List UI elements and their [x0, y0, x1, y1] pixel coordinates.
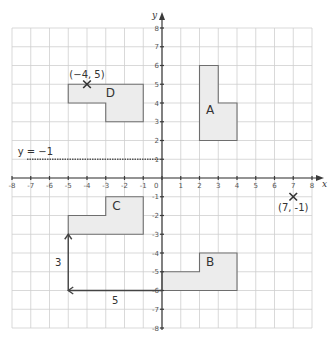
- y-tick-label: -4: [152, 250, 160, 258]
- x-tick-label: -8: [9, 182, 16, 190]
- arrow-label: 3: [55, 257, 61, 268]
- shape-label: D: [106, 86, 115, 100]
- y-tick-label: -3: [152, 231, 159, 239]
- x-tick-label: -7: [27, 182, 34, 190]
- x-tick-label: 2: [197, 182, 201, 190]
- y-tick-label: 4: [155, 100, 160, 108]
- y-tick-label: 5: [155, 81, 159, 89]
- point-label: (7, -1): [278, 202, 309, 213]
- annotations-layer: y = −1(−4, 5)(7, -1)53: [18, 69, 309, 305]
- x-tick-label: 7: [291, 182, 295, 190]
- translation-arrow: 5: [68, 287, 162, 306]
- x-tick-label: 1: [179, 182, 183, 190]
- x-tick-label: 8: [310, 182, 314, 190]
- y-tick-label: 7: [155, 43, 159, 51]
- y-tick-label: 6: [155, 62, 160, 70]
- y-axis-label: y: [151, 10, 158, 20]
- y-tick-label: -1: [152, 193, 159, 201]
- coordinate-grid-diagram: ABCD xy -8-7-6-5-4-3-2-10123456788765432…: [0, 0, 334, 342]
- shape-d: D: [68, 84, 143, 122]
- y-axis-arrowhead-icon: [159, 12, 165, 20]
- y-tick-label: 3: [155, 118, 159, 126]
- shape-label: A: [206, 103, 215, 117]
- shape-b-outline: [162, 253, 237, 291]
- y-tick-label: -2: [152, 212, 159, 220]
- point-marker: (7, -1): [278, 193, 309, 213]
- arrow-label: 5: [112, 295, 118, 306]
- origin-label: 0: [154, 182, 158, 190]
- y-tick-label: -7: [152, 306, 159, 314]
- shape-b: B: [162, 253, 237, 291]
- shape-label: B: [206, 255, 214, 269]
- translation-arrow: 3: [55, 234, 72, 290]
- shape-c: C: [68, 197, 143, 235]
- x-tick-label: -2: [121, 182, 128, 190]
- point-label: (−4, 5): [69, 69, 104, 80]
- x-tick-label: 6: [272, 182, 277, 190]
- x-tick-label: -1: [140, 182, 147, 190]
- x-axis-label: x: [322, 179, 327, 189]
- x-tick-label: -6: [46, 182, 54, 190]
- y-tick-label: 2: [155, 137, 159, 145]
- x-tick-label: -4: [84, 182, 92, 190]
- y-tick-label: 8: [155, 25, 159, 33]
- x-tick-label: 5: [254, 182, 258, 190]
- shape-a: A: [200, 66, 238, 141]
- y-tick-label: -5: [152, 268, 159, 276]
- x-tick-label: -3: [102, 182, 109, 190]
- shape-c-outline: [68, 197, 143, 235]
- x-tick-label: 4: [235, 182, 240, 190]
- x-tick-label: 3: [216, 182, 220, 190]
- x-tick-label: -5: [65, 182, 72, 190]
- y-tick-label: -8: [152, 325, 159, 333]
- shape-label: C: [112, 199, 120, 213]
- line-label: y = −1: [18, 146, 53, 157]
